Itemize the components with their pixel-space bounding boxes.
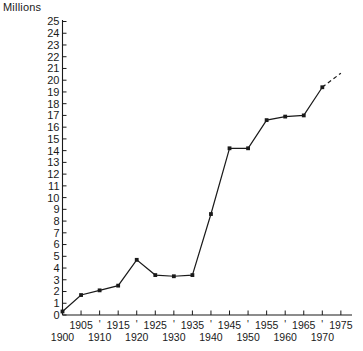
- x-tick-label-lower: 1920: [125, 331, 149, 343]
- x-label-separator: ': [284, 319, 286, 330]
- y-tick-label: 0: [53, 309, 59, 321]
- data-point-markers: [61, 85, 325, 313]
- x-tick-label-lower: 1910: [88, 331, 112, 343]
- line-chart: Millions 0123456789101112131415161718192…: [0, 0, 363, 351]
- y-tick-label: 22: [47, 51, 59, 63]
- x-axis-ticks: [63, 311, 341, 316]
- y-tick-label: 11: [48, 180, 59, 192]
- x-tick-label-upper: 1965: [292, 319, 316, 331]
- x-tick-label-lower: 1930: [162, 331, 186, 343]
- data-point-marker: [116, 284, 120, 288]
- x-label-separator: ': [173, 319, 175, 330]
- x-tick-label-lower: 1950: [236, 331, 260, 343]
- series-line-millions: [63, 87, 323, 311]
- y-tick-label: 20: [47, 74, 59, 86]
- x-label-separator: ': [321, 319, 323, 330]
- data-point-marker: [191, 273, 195, 277]
- x-tick-label-lower: 1970: [311, 331, 335, 343]
- projection-dashed-segment: [322, 73, 341, 87]
- y-tick-label: 19: [47, 86, 59, 98]
- x-tick-label-upper: 1925: [144, 319, 168, 331]
- y-tick-label: 6: [53, 238, 59, 250]
- x-tick-label-upper: 1955: [255, 319, 279, 331]
- x-tick-label-upper: 1935: [181, 319, 205, 331]
- data-point-marker: [228, 146, 232, 150]
- data-point-marker: [98, 288, 102, 292]
- y-tick-label: 2: [53, 285, 59, 297]
- x-tick-label-upper: 1905: [69, 319, 93, 331]
- x-label-separator: ': [247, 319, 249, 330]
- data-point-marker: [61, 310, 65, 314]
- y-tick-label: 3: [53, 274, 59, 286]
- y-tick-label: 23: [47, 39, 59, 51]
- x-tick-label-upper: 1975: [329, 319, 353, 331]
- y-tick-label: 10: [47, 192, 59, 204]
- y-tick-label: 18: [47, 98, 59, 110]
- y-tick-label: 24: [47, 27, 59, 39]
- y-tick-label: 17: [47, 109, 59, 121]
- x-tick-label-upper: 1915: [106, 319, 130, 331]
- data-point-marker: [246, 146, 250, 150]
- y-axis-ticks: [63, 22, 67, 316]
- data-point-marker: [265, 118, 269, 122]
- x-axis-label-separators: ''''''': [99, 319, 324, 330]
- data-point-marker: [153, 273, 157, 277]
- y-tick-label: 25: [47, 15, 59, 27]
- x-label-separator: ': [136, 319, 138, 330]
- x-tick-label-lower: 1900: [51, 331, 75, 343]
- y-tick-label: 7: [53, 227, 59, 239]
- x-tick-label-lower: 1960: [274, 331, 298, 343]
- data-point-marker: [302, 114, 306, 118]
- y-tick-label: 14: [47, 145, 59, 157]
- data-point-marker: [79, 293, 83, 297]
- y-tick-label: 13: [47, 156, 59, 168]
- y-tick-label: 21: [47, 62, 59, 74]
- y-axis-tick-labels: 0123456789101112131415161718192021222324…: [47, 15, 59, 321]
- chart-plot-area: 0123456789101112131415161718192021222324…: [0, 0, 363, 351]
- y-tick-label: 5: [53, 250, 59, 262]
- data-point-marker: [135, 258, 139, 262]
- data-point-marker: [320, 85, 324, 89]
- x-axis-tick-labels-lower: 19001910192019301940195019601970: [51, 331, 334, 343]
- data-point-marker: [283, 115, 287, 119]
- x-tick-label-upper: 1945: [218, 319, 242, 331]
- data-point-marker: [209, 212, 213, 216]
- data-point-marker: [172, 274, 176, 278]
- y-tick-label: 12: [47, 168, 59, 180]
- y-tick-label: 15: [47, 133, 59, 145]
- x-label-separator: ': [210, 319, 212, 330]
- y-tick-label: 1: [53, 297, 59, 309]
- y-tick-label: 4: [53, 262, 59, 274]
- x-tick-label-lower: 1940: [199, 331, 223, 343]
- y-tick-label: 8: [53, 215, 59, 227]
- y-tick-label: 9: [53, 203, 59, 215]
- y-tick-label: 16: [47, 121, 59, 133]
- x-label-separator: ': [99, 319, 101, 330]
